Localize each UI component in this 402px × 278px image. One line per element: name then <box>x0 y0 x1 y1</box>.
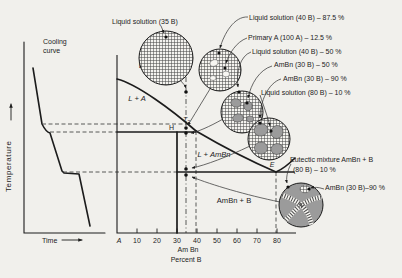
time-axis-label: Time <box>42 237 57 244</box>
x-axis-percent-label: Percent B <box>171 256 202 263</box>
tick-50: 50 <box>213 237 221 244</box>
tick-10: 10 <box>133 237 141 244</box>
cooling-curve-title-line2: curve <box>43 47 60 54</box>
annotation-eutectic-mixture-line2: (80 B) – 10 % <box>293 166 336 174</box>
annotation-ambn-90-below-eutectic: AmBn (30 B)–90 % <box>325 184 385 192</box>
cooling-axes <box>24 42 105 233</box>
point-label-h: H <box>169 124 174 131</box>
dot-circle3-top <box>237 90 240 93</box>
leader-circle1-to-liquid-point <box>180 80 186 88</box>
annotation-liquid-solution-80B-10: Liquid solution (80 B) – 10 % <box>261 89 351 97</box>
region-label-ambn-plus-b: AmBn + B <box>217 196 251 205</box>
liquidus-A-branch <box>117 79 196 131</box>
leader-eutectic-mixture-to-circle5 <box>287 164 291 183</box>
figure-canvas: Cooling curve Temperature Time A 10 20 <box>0 0 402 278</box>
tick-A: A <box>116 237 122 244</box>
dot-circle2-top <box>217 51 220 54</box>
annotation-ambn-50: AmBn (30 B) – 50 % <box>274 61 338 69</box>
cooling-curve-line <box>33 68 90 226</box>
tick-20: 20 <box>153 237 161 244</box>
tick-60: 60 <box>233 237 241 244</box>
microstructure-circle-liquid-plus-primaryA <box>199 49 241 91</box>
microstructure-circle-liquid-35B <box>139 31 193 85</box>
region-label-l-plus-ambn: L + AmBn <box>197 150 230 159</box>
annotation-liquid-solution-40B-50: Liquid solution (40 B) – 50 % <box>252 48 342 56</box>
x-axis-tick-labels: A 10 20 30 40 50 60 70 80 <box>116 237 281 244</box>
tick-70: 70 <box>253 237 261 244</box>
x-axis-compound-label: Am Bn <box>177 246 198 253</box>
microstructure-circle-ambn-plus-eutectic <box>279 183 323 227</box>
cooling-curve-title-line1: Cooling <box>43 38 67 46</box>
dot-alloy-below-eutectic <box>184 173 188 177</box>
cooling-curve-panel: Cooling curve Temperature Time <box>4 38 105 244</box>
dot-alloy-above-t2 <box>184 126 188 130</box>
annotation-primary-A: Primary A (100 A) – 12.5 % <box>248 34 332 42</box>
dot-circle5-eutectic <box>286 185 289 188</box>
annotation-ambn-90: AmBn (30 B) – 90 % <box>283 75 347 83</box>
dot-circle3-ambn <box>245 101 248 104</box>
dot-alloy-below-t2 <box>184 131 188 135</box>
tick-80: 80 <box>273 237 281 244</box>
tick-30: 30 <box>173 237 181 244</box>
dot-circle4-ambn <box>258 121 261 124</box>
temperature-axis-label: Temperature <box>4 140 13 192</box>
annotation-eutectic-mixture-line1: Eutectic mixture AmBn + B <box>290 156 373 163</box>
dot-circle4-liquid <box>269 129 272 132</box>
region-label-l-plus-a: L + A <box>128 94 146 103</box>
microstructure-circle-ambn-90-liquid-10 <box>248 118 290 160</box>
leader-circle2-to-above-t2 <box>188 89 210 125</box>
dot-circle2-primaryA <box>223 66 226 69</box>
leader-liq40-875-to-circle2 <box>220 17 248 48</box>
point-label-e: E <box>270 161 275 168</box>
dot-circle5-ambn <box>307 187 310 190</box>
x-axis-ticks <box>137 229 277 234</box>
tick-40: 40 <box>193 237 201 244</box>
phase-diagram-figure: Cooling curve Temperature Time A 10 20 <box>0 0 402 278</box>
annotation-liquid-solution-40B-875: Liquid solution (40 B) – 87.5 % <box>249 14 344 22</box>
annotation-liquid-solution-35B: Liquid solution (35 B) <box>112 18 178 26</box>
dot-circle1-top <box>164 35 167 38</box>
dot-alloy-above-eutectic <box>184 167 188 171</box>
dot-alloy-liquid-state <box>184 90 188 94</box>
